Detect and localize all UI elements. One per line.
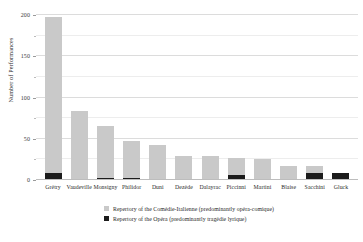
bar-segment-comedie-italienne[interactable] — [280, 166, 297, 180]
x-tick-label: Martini — [249, 181, 275, 195]
bar-slot[interactable] — [197, 15, 223, 180]
bar-slot[interactable] — [145, 15, 171, 180]
y-tick-label: 50 — [24, 136, 30, 142]
bar-segment-comedie-italienne[interactable] — [228, 158, 245, 175]
bar-slot[interactable] — [276, 15, 302, 180]
legend-item-opera: Repertory of the Opéra (predominantly tr… — [104, 214, 334, 223]
x-tick-label: Gluck — [328, 181, 354, 195]
y-axis: Number of Performances 050100150200 — [0, 15, 36, 180]
x-tick-label: Blaise — [276, 181, 302, 195]
bar-martini[interactable] — [254, 159, 271, 180]
bar-dalayrac[interactable] — [202, 156, 219, 180]
y-tick-label: 200 — [21, 12, 30, 18]
bar-segment-comedie-italienne[interactable] — [123, 141, 140, 178]
bar-segment-comedie-italienne[interactable] — [149, 145, 166, 180]
x-tick-label: Vaudeville — [66, 181, 92, 195]
bar-slot[interactable] — [171, 15, 197, 180]
x-tick-label: Philidor — [119, 181, 145, 195]
x-axis-labels: GrétryVaudevilleMonsignyPhilidorDuniDezè… — [36, 181, 358, 195]
x-tick-label: Sacchini — [302, 181, 328, 195]
legend-label-opera: Repertory of the Opéra (predominantly tr… — [113, 216, 246, 222]
bar-slot[interactable] — [328, 15, 354, 180]
bar-duni[interactable] — [149, 145, 166, 180]
bar-slot[interactable] — [66, 15, 92, 180]
bar-chart-figure: Number of Performances 050100150200 Grét… — [0, 0, 363, 242]
bar-slot[interactable] — [40, 15, 66, 180]
chart-legend: Repertory of the Comédie-Italienne (pred… — [104, 204, 334, 224]
bar-slot[interactable] — [92, 15, 118, 180]
comedie-italienne-swatch — [104, 206, 109, 211]
bar-piccinni[interactable] — [228, 158, 245, 180]
bar-grtry[interactable] — [45, 17, 62, 180]
x-axis-baseline — [36, 179, 358, 180]
bars-group — [36, 15, 358, 180]
bar-slot[interactable] — [302, 15, 328, 180]
bar-vaudeville[interactable] — [71, 111, 88, 180]
y-tick-label: 0 — [27, 177, 30, 183]
x-tick-label: Dalayrac — [197, 181, 223, 195]
bar-segment-comedie-italienne[interactable] — [45, 17, 62, 173]
bar-segment-comedie-italienne[interactable] — [306, 166, 323, 173]
legend-label-comedie-italienne: Repertory of the Comédie-Italienne (pred… — [113, 206, 274, 212]
bar-blaise[interactable] — [280, 166, 297, 180]
bar-slot[interactable] — [223, 15, 249, 180]
bar-slot[interactable] — [249, 15, 275, 180]
x-tick-label: Monsigny — [92, 181, 118, 195]
bar-monsigny[interactable] — [97, 126, 114, 180]
bar-sacchini[interactable] — [306, 166, 323, 180]
bar-philidor[interactable] — [123, 141, 140, 180]
opera-swatch — [104, 216, 109, 221]
bar-segment-comedie-italienne[interactable] — [254, 159, 271, 180]
x-tick-label: Duni — [145, 181, 171, 195]
bar-segment-comedie-italienne[interactable] — [97, 126, 114, 178]
legend-item-comedie-italienne: Repertory of the Comédie-Italienne (pred… — [104, 204, 334, 213]
bar-segment-comedie-italienne[interactable] — [71, 111, 88, 180]
x-tick-label: Dezède — [171, 181, 197, 195]
x-tick-label: Piccinni — [223, 181, 249, 195]
y-axis-title: Number of Performances — [8, 15, 14, 125]
y-tick-label: 150 — [21, 53, 30, 59]
y-tick-label: 100 — [21, 95, 30, 101]
bar-dezde[interactable] — [175, 156, 192, 180]
bar-segment-comedie-italienne[interactable] — [175, 156, 192, 179]
bar-slot[interactable] — [119, 15, 145, 180]
bar-segment-comedie-italienne[interactable] — [202, 156, 219, 180]
x-tick-label: Grétry — [40, 181, 66, 195]
plot-area — [36, 15, 358, 180]
